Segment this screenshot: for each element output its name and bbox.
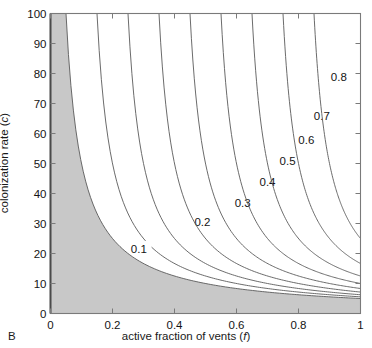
contour-label-0.5: 0.5 [280, 155, 296, 167]
y-tick-label: 50 [34, 158, 47, 170]
y-tick-label: 70 [34, 98, 47, 110]
x-tick-label: 0.2 [105, 319, 121, 331]
y-tick-label: 100 [27, 8, 46, 20]
y-tick-label: 60 [34, 128, 47, 140]
contour-label-0.8: 0.8 [331, 71, 347, 83]
contour-plot: 0.10.20.30.40.50.60.70.8 [0, 0, 372, 348]
x-axis-title: active fraction of vents (f) [122, 330, 251, 342]
contour-label-0.1: 0.1 [131, 243, 147, 255]
contour-label-0.4: 0.4 [260, 176, 277, 188]
x-tick-label: 0.8 [291, 319, 307, 331]
y-tick-label: 90 [34, 38, 47, 50]
x-tick-label: 0.6 [229, 319, 245, 331]
panel-label: B [8, 330, 16, 342]
y-tick-label: 30 [34, 218, 47, 230]
y-axis-title: colonization rate (c) [0, 113, 10, 213]
contour-line-0.7 [283, 14, 361, 264]
y-tick-label: 0 [40, 308, 46, 320]
figure-panel-b: 0.10.20.30.40.50.60.70.8 colonization ra… [0, 0, 372, 348]
y-tick-label: 40 [34, 188, 47, 200]
contour-label-0.3: 0.3 [235, 197, 251, 209]
contour-line-0.3 [159, 14, 361, 293]
x-tick-label: 0 [47, 319, 53, 331]
x-tick-label: 1 [357, 319, 363, 331]
contour-line-0.5 [221, 14, 361, 284]
y-tick-label: 20 [34, 248, 47, 260]
contour-line-0.8 [314, 14, 361, 239]
contour-label-0.6: 0.6 [298, 134, 314, 146]
y-tick-label: 80 [34, 68, 47, 80]
contour-line-0.1 [97, 14, 145, 241]
contour-line-0.2 [128, 14, 361, 295]
x-tick-label: 0.4 [167, 319, 183, 331]
y-tick-label: 10 [34, 278, 47, 290]
